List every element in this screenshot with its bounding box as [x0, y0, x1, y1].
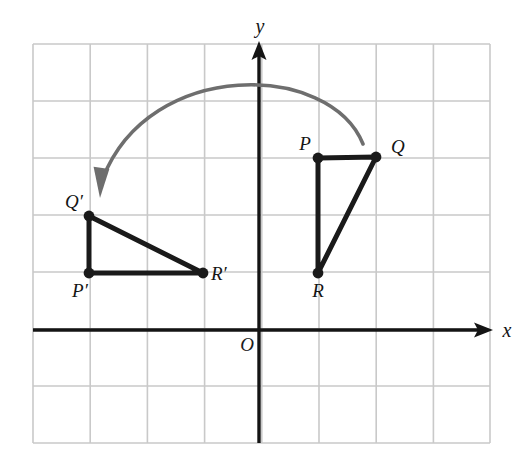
- vertex-label-p-prime: P′: [71, 280, 89, 301]
- y-axis-label: y: [254, 15, 265, 38]
- vertex-label-q: Q: [391, 136, 405, 157]
- vertex-label-q-prime: Q′: [65, 191, 84, 212]
- x-axis-label: x: [502, 319, 512, 341]
- vertex-point-p: [313, 153, 324, 164]
- vertex-label-r: R: [311, 280, 324, 301]
- vertex-point-p-prime: [84, 268, 95, 279]
- vertex-point-q-prime: [84, 211, 95, 222]
- vertex-point-r: [313, 268, 324, 279]
- geometry-figure: xyOPQRQ′P′R′: [0, 0, 525, 466]
- vertex-point-q: [371, 152, 382, 163]
- vertex-label-r-prime: R′: [210, 263, 228, 284]
- vertex-label-p: P: [298, 133, 311, 154]
- vertex-point-r-prime: [198, 268, 209, 279]
- coordinate-plane-svg: xyOPQRQ′P′R′: [0, 0, 525, 466]
- origin-label: O: [240, 334, 254, 355]
